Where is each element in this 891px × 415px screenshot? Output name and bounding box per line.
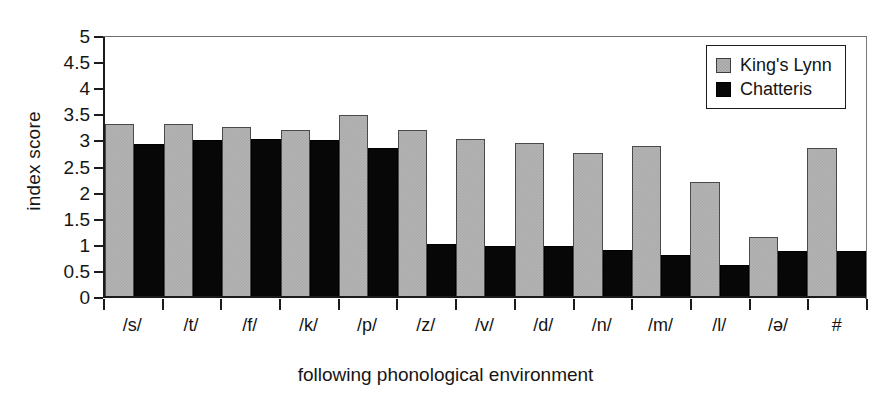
bar-kings-lynn bbox=[515, 143, 544, 296]
x-tick-label: /f/ bbox=[220, 316, 280, 334]
y-tick-mark bbox=[94, 193, 103, 195]
x-tick-mark bbox=[514, 299, 516, 310]
y-tick-label: 2 bbox=[34, 184, 90, 203]
x-tick-label: /z/ bbox=[396, 316, 456, 334]
bar-kings-lynn bbox=[164, 124, 193, 296]
x-tick-mark bbox=[573, 299, 575, 310]
legend-label-chatteris: Chatteris bbox=[740, 79, 812, 100]
x-tick-label: /d/ bbox=[513, 316, 573, 334]
y-tick-mark bbox=[94, 114, 103, 116]
x-tick-label: /ə/ bbox=[748, 316, 808, 334]
chart-legend: King's Lynn Chatteris bbox=[706, 45, 846, 109]
bar-group bbox=[164, 37, 223, 296]
x-tick-mark bbox=[455, 299, 457, 310]
y-tick-mark bbox=[94, 219, 103, 221]
gray-swatch-icon bbox=[716, 58, 731, 73]
bar-chatteris bbox=[837, 251, 866, 296]
x-tick-mark bbox=[631, 299, 633, 310]
bar-chatteris bbox=[778, 251, 807, 296]
y-tick-mark bbox=[94, 245, 103, 247]
y-tick-label: 4.5 bbox=[34, 53, 90, 72]
bar-group bbox=[515, 37, 574, 296]
bar-group bbox=[281, 37, 340, 296]
bar-group bbox=[573, 37, 632, 296]
y-tick-label: 0.5 bbox=[34, 262, 90, 281]
bar-kings-lynn bbox=[339, 115, 368, 296]
bar-kings-lynn bbox=[573, 153, 602, 296]
bar-chatteris bbox=[134, 144, 163, 296]
bar-group bbox=[398, 37, 457, 296]
bar-group bbox=[105, 37, 164, 296]
bar-kings-lynn bbox=[807, 148, 836, 296]
bar-group bbox=[456, 37, 515, 296]
y-tick-mark bbox=[94, 271, 103, 273]
x-tick-mark bbox=[866, 299, 868, 310]
bar-chart-figure: index score 54.543.532.521.510.50 /s//t/… bbox=[0, 0, 891, 415]
bar-kings-lynn bbox=[690, 182, 719, 296]
y-tick-label: 3.5 bbox=[34, 105, 90, 124]
x-tick-label: /m/ bbox=[631, 316, 691, 334]
y-tick-mark bbox=[94, 297, 103, 299]
bar-chatteris bbox=[427, 244, 456, 296]
y-tick-mark bbox=[94, 88, 103, 90]
x-tick-mark bbox=[279, 299, 281, 310]
black-swatch-icon bbox=[716, 82, 731, 97]
y-axis-tick-labels: 54.543.532.521.510.50 bbox=[34, 0, 90, 415]
bar-kings-lynn bbox=[398, 130, 427, 296]
legend-item-kings-lynn: King's Lynn bbox=[716, 53, 832, 77]
bar-chatteris bbox=[485, 246, 514, 296]
bar-chatteris bbox=[310, 140, 339, 296]
x-tick-mark bbox=[749, 299, 751, 310]
x-tick-label: /l/ bbox=[689, 316, 749, 334]
y-tick-label: 5 bbox=[34, 27, 90, 46]
bar-kings-lynn bbox=[632, 146, 661, 296]
x-tick-mark bbox=[807, 299, 809, 310]
bar-kings-lynn bbox=[222, 127, 251, 296]
bar-kings-lynn bbox=[749, 237, 778, 297]
y-tick-label: 1 bbox=[34, 236, 90, 255]
x-tick-mark bbox=[162, 299, 164, 310]
y-tick-mark bbox=[94, 140, 103, 142]
x-axis-title: following phonological environment bbox=[0, 364, 891, 386]
y-tick-mark bbox=[94, 36, 103, 38]
bar-chatteris bbox=[368, 148, 397, 296]
bar-kings-lynn bbox=[105, 124, 134, 296]
y-tick-label: 0 bbox=[34, 288, 90, 307]
legend-label-kings-lynn: King's Lynn bbox=[740, 55, 832, 76]
y-tick-label: 3 bbox=[34, 131, 90, 150]
bar-kings-lynn bbox=[456, 139, 485, 296]
x-tick-mark bbox=[220, 299, 222, 310]
bar-chatteris bbox=[251, 139, 280, 296]
x-tick-label: /t/ bbox=[161, 316, 221, 334]
y-tick-label: 1.5 bbox=[34, 210, 90, 229]
x-tick-label: /n/ bbox=[572, 316, 632, 334]
bar-chatteris bbox=[720, 265, 749, 296]
y-tick-label: 4 bbox=[34, 79, 90, 98]
bar-chatteris bbox=[603, 250, 632, 296]
bar-chatteris bbox=[193, 140, 222, 296]
x-tick-label: /p/ bbox=[337, 316, 397, 334]
x-tick-label: # bbox=[807, 316, 867, 334]
y-tick-mark bbox=[94, 62, 103, 64]
bar-chatteris bbox=[661, 255, 690, 296]
legend-item-chatteris: Chatteris bbox=[716, 77, 832, 101]
x-tick-mark bbox=[690, 299, 692, 310]
bar-group bbox=[339, 37, 398, 296]
y-tick-label: 2.5 bbox=[34, 158, 90, 177]
x-tick-label: /v/ bbox=[455, 316, 515, 334]
bar-chatteris bbox=[544, 246, 573, 296]
bar-group bbox=[222, 37, 281, 296]
y-tick-mark bbox=[94, 167, 103, 169]
x-tick-mark bbox=[338, 299, 340, 310]
bar-group bbox=[632, 37, 691, 296]
x-tick-mark bbox=[396, 299, 398, 310]
x-tick-label: /k/ bbox=[278, 316, 338, 334]
x-tick-label: /s/ bbox=[102, 316, 162, 334]
x-tick-mark bbox=[103, 299, 105, 310]
bar-kings-lynn bbox=[281, 130, 310, 296]
